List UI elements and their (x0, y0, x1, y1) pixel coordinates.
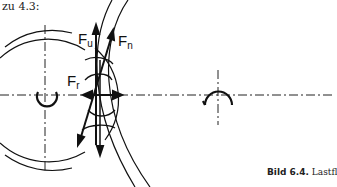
figure-caption: Bild 6.4. Lastfl (267, 167, 337, 177)
label-fn: Fn (118, 32, 133, 51)
caption-text: Lastfl (309, 167, 337, 177)
caption-number: Bild 6.4. (267, 167, 309, 177)
center-lines (0, 25, 334, 170)
rotation-arrow-left-icon (37, 92, 57, 106)
right-gear-arcs (97, 0, 150, 187)
label-fu: Fu (78, 30, 93, 49)
label-fr: Fr (67, 72, 80, 91)
